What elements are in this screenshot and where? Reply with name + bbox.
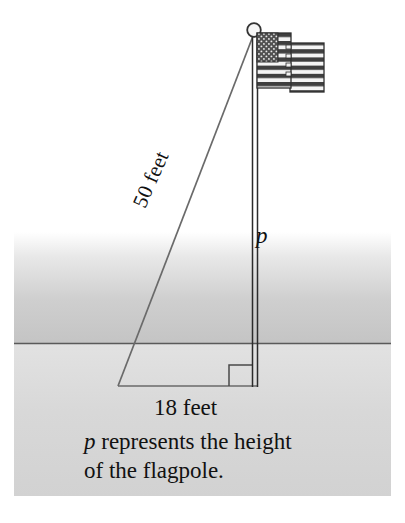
flag-fold-panel	[290, 43, 324, 92]
caption-line-1-rest: represents the height	[96, 429, 292, 454]
horizontal-leg-label: 18 feet	[154, 396, 217, 419]
flag-canton	[257, 33, 278, 62]
vertical-leg-label: p	[256, 224, 268, 247]
caption-variable: p	[84, 429, 96, 454]
american-flag-icon	[257, 33, 324, 92]
caption-line-1: p represents the height	[84, 430, 292, 453]
caption-line-2: of the flagpole.	[84, 459, 224, 482]
background-bands	[14, 232, 391, 496]
figure-canvas: 50 feet p 18 feet p represents the heigh…	[0, 0, 405, 523]
